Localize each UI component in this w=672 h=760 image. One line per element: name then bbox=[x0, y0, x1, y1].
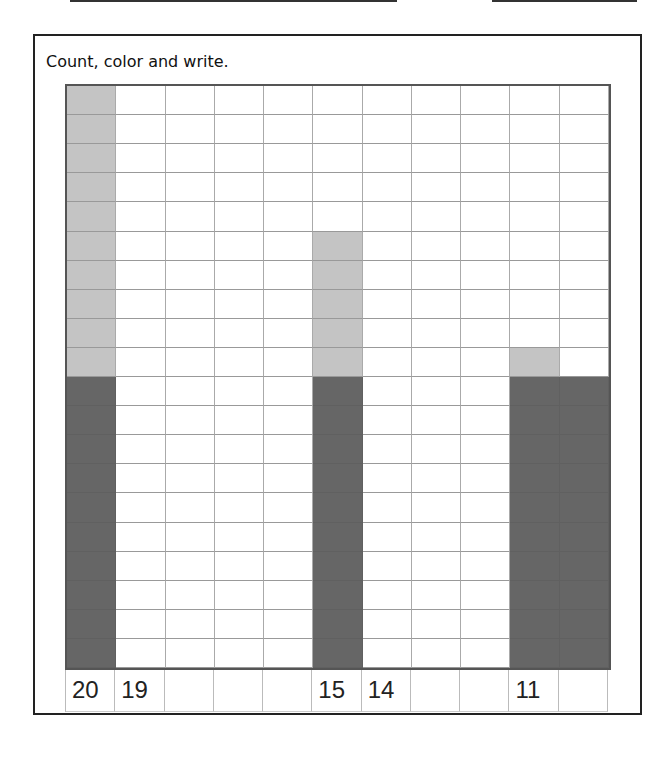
grid-cell[interactable] bbox=[116, 464, 165, 493]
grid-cell[interactable] bbox=[166, 523, 215, 552]
grid-cell[interactable] bbox=[461, 435, 510, 464]
grid-cell[interactable] bbox=[510, 377, 559, 406]
grid-cell[interactable] bbox=[166, 435, 215, 464]
grid-cell[interactable] bbox=[116, 639, 165, 668]
grid-cell[interactable] bbox=[116, 610, 165, 639]
grid-cell[interactable] bbox=[461, 406, 510, 435]
grid-cell[interactable] bbox=[363, 523, 412, 552]
grid-cell[interactable] bbox=[412, 406, 461, 435]
grid-cell[interactable] bbox=[560, 406, 609, 435]
grid-cell[interactable] bbox=[116, 86, 165, 115]
grid-cell[interactable] bbox=[264, 523, 313, 552]
grid-cell[interactable] bbox=[412, 173, 461, 202]
grid-cell[interactable] bbox=[412, 348, 461, 377]
grid-cell[interactable] bbox=[363, 290, 412, 319]
grid-cell[interactable] bbox=[313, 319, 362, 348]
grid-cell[interactable] bbox=[313, 639, 362, 668]
grid-cell[interactable] bbox=[461, 202, 510, 231]
grid-cell[interactable] bbox=[363, 202, 412, 231]
grid-cell[interactable] bbox=[264, 348, 313, 377]
grid-cell[interactable] bbox=[461, 581, 510, 610]
grid-cell[interactable] bbox=[67, 377, 116, 406]
grid-cell[interactable] bbox=[67, 523, 116, 552]
grid-cell[interactable] bbox=[166, 173, 215, 202]
grid-cell[interactable] bbox=[166, 115, 215, 144]
grid-cell[interactable] bbox=[67, 261, 116, 290]
grid-cell[interactable] bbox=[560, 202, 609, 231]
grid-cell[interactable] bbox=[215, 290, 264, 319]
grid-cell[interactable] bbox=[461, 319, 510, 348]
grid-cell[interactable] bbox=[313, 115, 362, 144]
grid-cell[interactable] bbox=[215, 144, 264, 173]
grid-cell[interactable] bbox=[560, 144, 609, 173]
grid-cell[interactable] bbox=[560, 552, 609, 581]
grid-cell[interactable] bbox=[412, 144, 461, 173]
grid-cell[interactable] bbox=[215, 464, 264, 493]
grid-cell[interactable] bbox=[264, 232, 313, 261]
grid-cell[interactable] bbox=[264, 435, 313, 464]
grid-cell[interactable] bbox=[510, 435, 559, 464]
grid-cell[interactable] bbox=[313, 173, 362, 202]
grid-cell[interactable] bbox=[510, 261, 559, 290]
grid-cell[interactable] bbox=[461, 173, 510, 202]
grid-cell[interactable] bbox=[264, 86, 313, 115]
grid-cell[interactable] bbox=[313, 581, 362, 610]
grid-cell[interactable] bbox=[313, 493, 362, 522]
grid-cell[interactable] bbox=[67, 144, 116, 173]
grid-cell[interactable] bbox=[116, 202, 165, 231]
grid-cell[interactable] bbox=[116, 377, 165, 406]
grid-cell[interactable] bbox=[215, 232, 264, 261]
grid-cell[interactable] bbox=[510, 406, 559, 435]
number-label[interactable] bbox=[559, 670, 608, 712]
grid-cell[interactable] bbox=[313, 523, 362, 552]
grid-cell[interactable] bbox=[510, 290, 559, 319]
grid-cell[interactable] bbox=[412, 639, 461, 668]
grid-cell[interactable] bbox=[363, 261, 412, 290]
grid-cell[interactable] bbox=[116, 552, 165, 581]
grid-cell[interactable] bbox=[510, 115, 559, 144]
grid-cell[interactable] bbox=[510, 348, 559, 377]
grid-cell[interactable] bbox=[510, 173, 559, 202]
grid-cell[interactable] bbox=[166, 261, 215, 290]
grid-cell[interactable] bbox=[461, 115, 510, 144]
grid-cell[interactable] bbox=[67, 173, 116, 202]
grid-cell[interactable] bbox=[264, 202, 313, 231]
grid-cell[interactable] bbox=[215, 435, 264, 464]
grid-cell[interactable] bbox=[313, 144, 362, 173]
grid-cell[interactable] bbox=[363, 464, 412, 493]
grid-cell[interactable] bbox=[116, 406, 165, 435]
grid-cell[interactable] bbox=[67, 86, 116, 115]
grid-cell[interactable] bbox=[215, 639, 264, 668]
grid-cell[interactable] bbox=[510, 86, 559, 115]
grid-cell[interactable] bbox=[116, 435, 165, 464]
grid-cell[interactable] bbox=[510, 581, 559, 610]
grid-cell[interactable] bbox=[116, 232, 165, 261]
grid-cell[interactable] bbox=[461, 552, 510, 581]
grid-cell[interactable] bbox=[67, 319, 116, 348]
grid-cell[interactable] bbox=[166, 290, 215, 319]
grid-cell[interactable] bbox=[313, 290, 362, 319]
grid-cell[interactable] bbox=[412, 202, 461, 231]
grid-cell[interactable] bbox=[363, 319, 412, 348]
grid-cell[interactable] bbox=[461, 261, 510, 290]
grid-cell[interactable] bbox=[215, 173, 264, 202]
grid-cell[interactable] bbox=[264, 115, 313, 144]
grid-cell[interactable] bbox=[264, 464, 313, 493]
grid-cell[interactable] bbox=[560, 581, 609, 610]
grid-cell[interactable] bbox=[412, 435, 461, 464]
grid-cell[interactable] bbox=[560, 261, 609, 290]
grid-cell[interactable] bbox=[67, 581, 116, 610]
grid-cell[interactable] bbox=[215, 493, 264, 522]
grid-cell[interactable] bbox=[313, 202, 362, 231]
grid-cell[interactable] bbox=[313, 377, 362, 406]
grid-cell[interactable] bbox=[166, 202, 215, 231]
grid-cell[interactable] bbox=[264, 406, 313, 435]
grid-cell[interactable] bbox=[363, 639, 412, 668]
grid-cell[interactable] bbox=[116, 523, 165, 552]
grid-cell[interactable] bbox=[363, 144, 412, 173]
grid-cell[interactable] bbox=[166, 464, 215, 493]
grid-cell[interactable] bbox=[560, 610, 609, 639]
grid-cell[interactable] bbox=[461, 639, 510, 668]
grid-cell[interactable] bbox=[166, 232, 215, 261]
grid-cell[interactable] bbox=[461, 290, 510, 319]
